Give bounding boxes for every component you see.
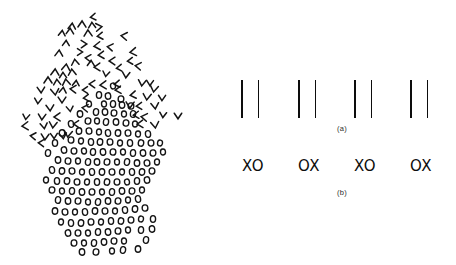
texture-chevron-glyph <box>122 72 130 78</box>
texture-circle-glyph <box>124 158 130 166</box>
texture-chevron-glyph <box>40 123 48 129</box>
texture-circle-glyph <box>55 157 61 164</box>
texture-chevron-glyph <box>136 102 142 109</box>
texture-circle-glyph <box>94 179 99 186</box>
texture-chevron-glyph <box>34 98 41 104</box>
texture-chevron-glyph <box>96 23 103 31</box>
texture-chevron-glyph <box>58 30 65 36</box>
texture-circle-glyph <box>117 140 123 147</box>
texture-circle-glyph <box>75 230 81 236</box>
texture-circle-glyph <box>111 110 117 117</box>
texture-circle-glyph <box>143 236 149 243</box>
texture-circle-glyph <box>98 219 104 226</box>
texture-chevron-glyph <box>82 87 87 94</box>
texture-circle-glyph <box>69 188 75 195</box>
texture-circle-glyph <box>120 149 126 156</box>
texture-circle-glyph <box>128 217 134 223</box>
texture-chevron-glyph <box>71 59 79 65</box>
vertical-bar <box>371 80 373 118</box>
texture-chevron-glyph <box>44 77 52 83</box>
texture-chevron-glyph <box>90 13 96 20</box>
texture-circle-glyph <box>138 226 144 233</box>
texture-chevron-glyph <box>51 69 59 75</box>
texture-circle-glyph <box>130 110 136 117</box>
texture-circle-glyph <box>105 198 111 205</box>
texture-circle-glyph <box>121 238 126 244</box>
texture-circle-glyph <box>108 218 113 225</box>
panel-label-a: (a) <box>228 124 456 133</box>
texture-circle-glyph <box>93 108 99 115</box>
texture-chevron-glyph <box>49 122 57 128</box>
xo-letter-pair: XO <box>242 156 264 176</box>
texture-circle-glyph <box>126 197 131 203</box>
texture-circle-glyph <box>58 219 64 225</box>
texture-circle-glyph <box>55 196 61 203</box>
texture-circle-glyph <box>101 239 107 246</box>
texture-circle-glyph <box>125 130 131 137</box>
texture-blob-svg <box>0 0 228 265</box>
texture-circle-glyph <box>110 149 116 156</box>
texture-chevron-glyph <box>53 79 60 85</box>
texture-chevron-glyph <box>58 97 66 103</box>
texture-circle-glyph <box>149 225 155 232</box>
texture-circle-glyph <box>122 206 128 213</box>
texture-chevron-glyph <box>46 105 54 111</box>
texture-circle-glyph <box>75 198 82 205</box>
texture-chevron-glyph <box>129 48 136 57</box>
texture-chevron-glyph <box>98 51 104 59</box>
texture-circle-glyph <box>59 168 65 175</box>
texture-chevron-glyph <box>143 94 152 101</box>
texture-chevron-glyph <box>109 57 115 65</box>
texture-circle-glyph <box>85 158 91 165</box>
texture-circle-glyph <box>154 159 159 165</box>
texture-chevron-glyph <box>66 28 74 34</box>
texture-circle-glyph <box>114 159 119 165</box>
texture-circle-glyph <box>52 140 57 147</box>
texture-circle-glyph <box>79 249 85 256</box>
xo-letter-pair: XO <box>354 156 376 176</box>
texture-circle-glyph <box>65 158 71 165</box>
texture-circle-glyph <box>149 168 155 175</box>
texture-circle-glyph <box>157 140 163 147</box>
texture-circle-glyph <box>160 149 166 155</box>
texture-circle-glyph <box>144 176 150 183</box>
bar-pair <box>298 80 316 118</box>
texture-circle-glyph <box>74 179 80 185</box>
bar-pair <box>354 80 372 118</box>
texture-circle-glyph <box>79 169 84 175</box>
texture-circle-glyph <box>78 219 84 226</box>
texture-circle-glyph <box>104 178 111 185</box>
texture-chevron-glyph <box>77 49 82 56</box>
texture-circle-glyph <box>113 119 119 126</box>
texture-chevron-glyph <box>138 80 146 87</box>
texture-chevron-glyph <box>51 89 60 96</box>
texture-circle-glyph <box>81 148 87 155</box>
texture-chevron-glyph <box>130 91 137 99</box>
texture-chevron-glyph <box>54 113 60 121</box>
texture-chevron-glyph <box>30 132 36 140</box>
texture-circle-glyph <box>135 195 141 203</box>
texture-chevron-glyph <box>59 87 67 93</box>
texture-chevron-glyph <box>62 40 69 45</box>
texture-circle-glyph <box>45 149 51 156</box>
texture-chevron-glyph <box>22 122 29 130</box>
texture-circle-glyph <box>148 140 154 146</box>
texture-circle-glyph <box>65 198 71 205</box>
texture-circle-glyph <box>100 148 106 155</box>
texture-circle-glyph <box>102 109 108 116</box>
texture-chevron-glyph <box>38 139 44 146</box>
texture-chevron-glyph <box>100 81 106 89</box>
texture-circle-glyph <box>125 227 131 234</box>
vertical-bar <box>258 80 260 118</box>
texture-circle-glyph <box>124 179 130 186</box>
texture-circle-glyph <box>114 179 120 185</box>
vertical-bar <box>354 80 356 118</box>
texture-circle-glyph <box>115 228 121 235</box>
texture-chevron-glyph <box>159 112 166 118</box>
texture-circle-glyph <box>49 166 55 173</box>
texture-circle-glyph <box>144 159 151 166</box>
texture-circle-glyph <box>82 208 88 215</box>
texture-circle-glyph <box>103 118 109 125</box>
texture-chevron-glyph <box>116 64 122 71</box>
texture-chevron-glyph <box>127 57 132 64</box>
